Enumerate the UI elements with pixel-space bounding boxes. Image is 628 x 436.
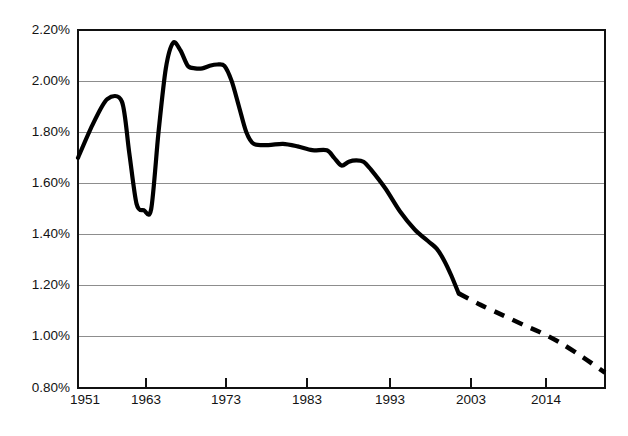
y-tick-label: 1.20% bbox=[32, 277, 70, 292]
x-tick-label: 1973 bbox=[211, 392, 241, 407]
line-chart: 2.20% 2.00% 1.80% 1.60% 1.40% 1.20% 1.00… bbox=[0, 0, 628, 436]
chart-background bbox=[0, 0, 628, 436]
x-tick-label: 2003 bbox=[456, 392, 486, 407]
chart-container: 2.20% 2.00% 1.80% 1.60% 1.40% 1.20% 1.00… bbox=[0, 0, 628, 436]
x-tick-label: 2014 bbox=[531, 392, 562, 407]
y-tick-label: 2.20% bbox=[32, 22, 70, 37]
x-tick-label: 1983 bbox=[292, 392, 322, 407]
y-tick-label: 1.60% bbox=[32, 175, 70, 190]
y-tick-label: 1.00% bbox=[32, 328, 70, 343]
y-tick-label: 1.40% bbox=[32, 226, 70, 241]
x-tick-label: 1963 bbox=[131, 392, 161, 407]
y-tick-label: 1.80% bbox=[32, 124, 70, 139]
x-tick-label: 1951 bbox=[70, 392, 100, 407]
x-tick-label: 1993 bbox=[375, 392, 405, 407]
y-tick-label: 2.00% bbox=[32, 73, 70, 88]
y-tick-label: 0.80% bbox=[32, 380, 70, 395]
